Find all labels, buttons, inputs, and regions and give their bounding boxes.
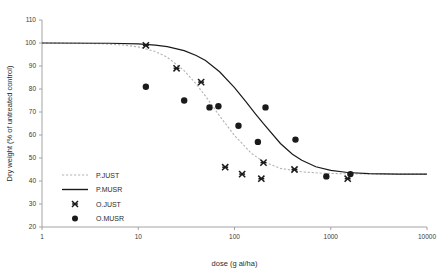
y-tick-label: 100 xyxy=(25,39,36,46)
legend-label: P.JUST xyxy=(96,172,120,179)
data-point-circle xyxy=(255,139,261,145)
y-tick-label: 80 xyxy=(29,85,37,92)
data-point-circle xyxy=(323,173,329,179)
data-point-circle xyxy=(235,123,241,129)
data-point-xstar xyxy=(198,79,204,85)
chart-figure: 2030405060708090100110110100100010000 P.… xyxy=(0,0,444,276)
y-tick-label: 40 xyxy=(29,177,37,184)
data-point-xstar xyxy=(291,166,297,172)
data-point-circle xyxy=(181,97,187,103)
legend-xstar-swatch xyxy=(72,201,78,207)
y-tick-label: 90 xyxy=(29,62,37,69)
x-tick-label: 10 xyxy=(135,233,143,240)
y-axis-title: Dry weight (% of untreated control) xyxy=(5,65,14,181)
data-point-xstar xyxy=(173,65,179,71)
y-tick-label: 30 xyxy=(29,200,37,207)
data-point-circle xyxy=(215,103,221,109)
x-tick-label: 1000 xyxy=(324,233,339,240)
data-point-xstar xyxy=(143,42,149,48)
series-line-p-just xyxy=(42,43,427,174)
legend-label: O.JUST xyxy=(96,201,122,208)
legend-label: P.MUSR xyxy=(96,186,122,193)
legend-label: O.MUSR xyxy=(96,215,124,222)
x-axis-title: dose (g ai/ha) xyxy=(212,259,258,268)
data-point-xstar xyxy=(239,171,245,177)
data-point-circle xyxy=(143,84,149,90)
y-tick-label: 110 xyxy=(26,16,37,23)
series-line-p-musr xyxy=(42,43,427,174)
legend-item-o-musr: O.MUSR xyxy=(72,215,124,222)
x-tick-label: 100 xyxy=(229,233,240,240)
legend-item-p-musr: P.MUSR xyxy=(62,186,122,193)
x-tick-label: 1 xyxy=(40,233,44,240)
data-point-circle xyxy=(206,104,212,110)
data-point-circle xyxy=(292,136,298,142)
data-point-xstar xyxy=(260,160,266,166)
legend-circle-swatch xyxy=(72,216,78,222)
scatter-plot-canvas: 2030405060708090100110110100100010000 P.… xyxy=(0,0,444,276)
data-point-circle xyxy=(262,104,268,110)
data-series xyxy=(42,42,427,182)
data-point-xstar xyxy=(258,176,264,182)
series-markers-o-musr xyxy=(143,84,354,180)
x-tick-label: 10000 xyxy=(418,233,436,240)
chart-legend: P.JUSTP.MUSRO.JUSTO.MUSR xyxy=(62,172,124,223)
data-point-xstar xyxy=(222,164,228,170)
y-tick-label: 70 xyxy=(29,108,37,115)
axes: 2030405060708090100110110100100010000 xyxy=(25,16,436,239)
y-tick-label: 50 xyxy=(29,154,37,161)
legend-item-p-just: P.JUST xyxy=(62,172,120,179)
data-point-circle xyxy=(347,171,353,177)
y-tick-label: 20 xyxy=(29,223,37,230)
y-tick-label: 60 xyxy=(29,131,37,138)
legend-item-o-just: O.JUST xyxy=(72,201,122,208)
